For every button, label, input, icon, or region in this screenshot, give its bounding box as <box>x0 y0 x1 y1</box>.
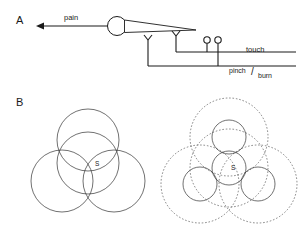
free-nerve-ending-2 <box>172 31 180 52</box>
field-left-solid <box>183 167 217 201</box>
panel-a: A pain touch pinch / burn <box>16 13 296 79</box>
ending-capsule <box>204 37 210 43</box>
ending-branch-right <box>176 31 180 36</box>
peripheral-axon-taper <box>125 20 197 33</box>
panel-b-left-diagram <box>31 109 145 212</box>
field-center <box>57 132 119 194</box>
panel-b-right-centers <box>183 120 275 201</box>
receptive-field-center-label-right: S <box>231 164 236 171</box>
free-nerve-endings-group <box>144 31 180 66</box>
encapsulated-ending-1 <box>204 37 210 52</box>
field-right-solid <box>241 167 275 201</box>
surround-left-dashed <box>161 145 239 223</box>
surround-top-dashed <box>190 98 268 176</box>
ending-branch-right <box>148 35 152 40</box>
field-left <box>31 150 93 212</box>
surround-right-dashed <box>219 145 297 223</box>
arrowhead-icon <box>36 23 44 30</box>
panel-label-a: A <box>16 14 24 26</box>
pain-label: pain <box>64 13 78 22</box>
panel-label-b: B <box>16 96 23 108</box>
touch-label: touch <box>246 45 264 54</box>
figure-root: A pain touch pinch / burn <box>0 0 303 230</box>
ending-branch-left <box>172 31 176 36</box>
ending-branch-left <box>144 35 148 40</box>
pinch-burn-label-group: pinch / burn <box>229 66 272 79</box>
panel-b-right-surrounds <box>161 98 297 223</box>
fraction-slash: / <box>251 66 254 77</box>
free-nerve-ending-1 <box>144 35 152 66</box>
field-right <box>83 150 145 212</box>
field-top-solid <box>212 120 246 154</box>
encapsulated-endings-group <box>204 37 221 66</box>
field-center-solid <box>212 151 246 185</box>
surround-center-dashed <box>190 129 268 207</box>
soma-cell-body <box>108 17 127 36</box>
burn-label: burn <box>258 72 272 79</box>
pinch-label: pinch <box>229 67 246 75</box>
pain-arrow-group <box>36 23 108 30</box>
field-top <box>57 109 119 171</box>
receptive-field-center-label-left: S <box>95 160 100 167</box>
neuroscience-figure: A pain touch pinch / burn <box>0 0 303 230</box>
ending-capsule <box>215 37 221 43</box>
panel-b: B S S <box>16 96 297 223</box>
encapsulated-ending-2 <box>215 37 221 66</box>
